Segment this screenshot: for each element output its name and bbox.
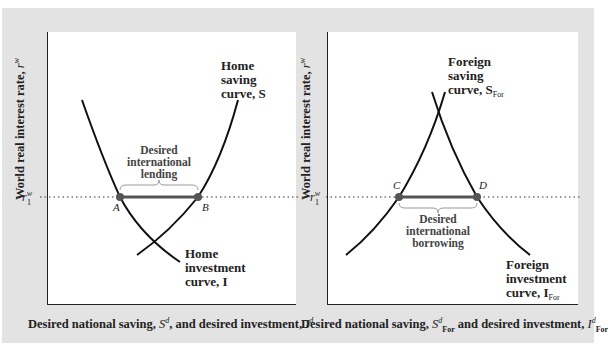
svg-text:Desired: Desired [419,213,457,225]
point-a-label: A [112,201,120,213]
foreign-rate-label: rw1 [310,189,321,207]
foreign-borrowing-label: Desired international borrowing [406,213,470,250]
svg-text:investment: investment [506,271,567,286]
svg-text:saving: saving [448,68,484,83]
point-b [194,193,202,201]
svg-text:Foreign: Foreign [506,257,550,272]
svg-text:Foreign: Foreign [448,54,492,69]
svg-text:curve, I: curve, I [185,274,228,289]
svg-text:saving: saving [221,72,257,87]
svg-text:lending: lending [141,168,178,181]
point-d [473,193,481,201]
svg-text:Home: Home [221,58,254,73]
point-b-label: B [202,201,209,213]
svg-text:international: international [127,156,191,168]
svg-text:curve, IFor: curve, IFor [506,285,560,302]
point-c [395,193,403,201]
svg-text:Home: Home [185,246,218,261]
foreign-borrowing-brace [399,203,477,213]
home-investment-curve-label: Home investment curve, I [185,246,246,289]
point-c-label: C [393,179,401,191]
point-d-label: D [478,179,487,191]
svg-text:Desired: Desired [140,144,178,156]
svg-text:international: international [406,225,470,237]
foreign-investment-curve-label: Foreign investment curve, IFor [506,257,567,302]
svg-text:curve, S: curve, S [221,86,266,101]
home-rate-label: rw1 [22,189,33,207]
svg-text:borrowing: borrowing [412,237,464,250]
home-lending-brace [120,180,198,190]
point-a [116,193,124,201]
svg-text:investment: investment [185,260,246,275]
home-investment-curve [82,100,180,262]
foreign-saving-curve-label: Foreign saving curve, SFor [448,54,504,99]
svg-text:curve, SFor: curve, SFor [448,82,504,99]
home-saving-curve-label: Home saving curve, S [221,58,266,101]
home-lending-label: Desired international lending [127,144,191,181]
